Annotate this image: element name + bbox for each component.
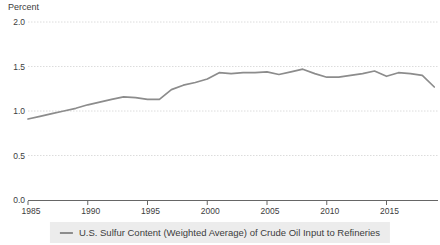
x-tick-label: 1985 <box>22 206 41 216</box>
x-tick-label: 2005 <box>261 206 280 216</box>
x-tick-label: 2015 <box>380 206 399 216</box>
line-chart: 0.00.51.01.52.01985199019952000200520102… <box>0 0 440 245</box>
legend: U.S. Sulfur Content (Weighted Average) o… <box>50 222 390 243</box>
chart-panel: Percent 0.00.51.01.52.019851990199520002… <box>0 0 440 245</box>
x-tick-label: 1995 <box>141 206 160 216</box>
y-tick-label: 1.5 <box>13 62 25 72</box>
y-tick-label: 2.0 <box>13 17 25 27</box>
legend-label: U.S. Sulfur Content (Weighted Average) o… <box>79 227 380 238</box>
legend-line-swatch <box>60 232 73 234</box>
y-tick-label: 0.0 <box>13 195 25 205</box>
y-tick-label: 1.0 <box>13 106 25 116</box>
x-tick-label: 1990 <box>81 206 100 216</box>
data-line <box>28 69 434 119</box>
x-tick-label: 2000 <box>201 206 220 216</box>
y-tick-label: 0.5 <box>13 151 25 161</box>
x-tick-label: 2010 <box>320 206 339 216</box>
